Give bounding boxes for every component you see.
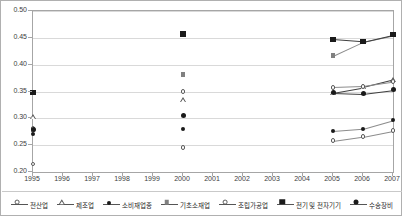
legend-label: 수송장비 [369,200,393,210]
legend-item-7[interactable]: 수송장비 [350,200,393,210]
x-axis-tick [362,172,363,176]
plot-area [32,10,394,173]
x-axis-tick [242,172,243,176]
y-axis-tick-label: 0.50 [3,6,27,13]
legend-marker [103,204,120,205]
y-axis-tick-label: 0.40 [3,60,27,67]
legend-label: 전산업 [30,200,48,210]
legend-item-2[interactable]: 제조업 [57,200,94,210]
x-axis-tick [122,172,123,176]
y-axis-tick [28,117,32,118]
x-axis-tick [182,172,183,176]
series-line-segment [363,90,393,95]
y-axis-tick [28,37,32,38]
x-axis-tick [332,172,333,176]
legend-marker [277,204,294,205]
legend-marker [219,204,236,205]
x-axis-tick-label: 2007 [372,175,403,182]
legend-item-1[interactable]: 전산업 [11,200,48,210]
legend-marker-glyph [14,200,19,205]
legend-marker-glyph [107,201,111,205]
legend-marker [350,204,367,205]
legend-item-3[interactable]: 소비재업종 [103,200,152,210]
x-axis-tick [302,172,303,176]
x-axis-tick [272,172,273,176]
data-point [181,113,186,118]
legend-item-4[interactable]: 기초소재업 [161,200,210,210]
legend-marker-glyph [280,199,286,205]
y-axis-tick-label: 0.30 [3,113,27,120]
data-point [331,90,336,95]
chart-frame: 0.200.250.300.350.400.450.50 19951996199… [0,0,402,216]
x-axis-tick [32,172,33,176]
legend-item-5[interactable]: 조립가공업 [219,200,268,210]
y-axis-tick-label: 0.35 [3,87,27,94]
y-axis-tick-label: 0.20 [3,167,27,174]
data-point [391,87,396,92]
legend-marker-glyph [222,200,227,205]
legend-label: 전기 및 전자기기 [296,200,342,210]
legend-marker-glyph [354,200,359,205]
data-point [361,91,366,96]
legend-label: 조립가공업 [238,200,268,210]
y-axis-tick [28,144,32,145]
legend-marker-glyph [165,200,170,205]
x-axis-tick [152,172,153,176]
x-axis-tick [392,172,393,176]
y-axis-tick [28,91,32,92]
x-axis-tick [212,172,213,176]
x-axis-tick [92,172,93,176]
data-point [31,127,36,132]
y-axis-tick [28,64,32,65]
legend-item-6[interactable]: 전기 및 전자기기 [277,200,342,210]
x-axis-tick [62,172,63,176]
y-axis-tick-label: 0.25 [3,140,27,147]
y-axis-tick [28,10,32,11]
y-axis-tick-label: 0.45 [3,33,27,40]
chart-legend: 전산업제조업소비재업종기초소재업조립가공업전기 및 전자기기수송장비 [2,191,402,217]
legend-marker-glyph [59,199,65,205]
legend-label: 소비재업종 [122,200,152,210]
legend-marker [11,204,28,205]
legend-marker [57,204,74,205]
legend-label: 기초소재업 [180,200,210,210]
series-line-segment [333,93,363,95]
legend-marker [161,204,178,205]
series-7 [33,11,393,172]
legend-label: 제조업 [76,200,94,210]
